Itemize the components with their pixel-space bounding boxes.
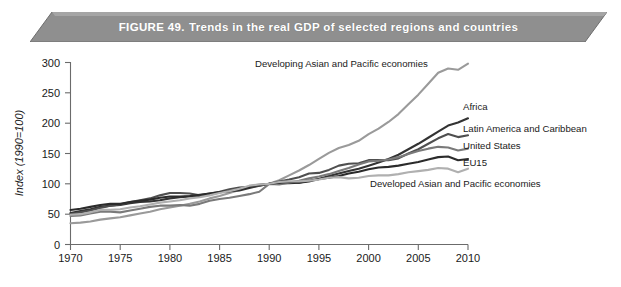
series-line-africa xyxy=(71,118,469,213)
chart-plot-area: 300 250 200 150 100 50 0 Index (1990=100… xyxy=(0,48,621,287)
banner-shape-icon xyxy=(30,12,607,42)
x-tick-label-2005: 2005 xyxy=(406,252,430,264)
y-axis-title: Index (1990=100) xyxy=(13,109,25,196)
x-tick-label-1990: 1990 xyxy=(257,252,281,264)
series-label-latin-america: Latin America and Caribbean xyxy=(463,123,587,134)
series-label-united-states: United States xyxy=(463,140,521,151)
series-line-developing-asian-and-pacific-economies xyxy=(71,64,469,224)
figure-title-banner: FIGURE 49. Trends in the real GDP of sel… xyxy=(30,12,607,42)
series-line-developed-asian-and-pacific-economies xyxy=(71,168,469,215)
figure-container: FIGURE 49. Trends in the real GDP of sel… xyxy=(0,0,621,287)
series-label-eu15: EU15 xyxy=(463,157,487,168)
y-tick-label-300: 300 xyxy=(42,57,60,69)
series-paths-group xyxy=(71,64,469,224)
x-axis-ticks xyxy=(71,245,469,251)
x-tick-label-2010: 2010 xyxy=(456,252,480,264)
x-tick-label-1975: 1975 xyxy=(108,252,132,264)
y-axis-ticks xyxy=(65,63,71,245)
y-tick-label-100: 100 xyxy=(42,178,60,190)
x-tick-label-2000: 2000 xyxy=(356,252,380,264)
series-label-developing-asia: Developing Asian and Pacific economies xyxy=(255,58,428,69)
x-tick-label-1985: 1985 xyxy=(207,252,231,264)
x-tick-label-1995: 1995 xyxy=(307,252,331,264)
y-tick-label-50: 50 xyxy=(48,208,60,220)
line-chart-svg: 300 250 200 150 100 50 0 Index (1990=100… xyxy=(0,48,621,287)
y-tick-label-250: 250 xyxy=(42,87,60,99)
series-label-developed-asia: Developed Asian and Pacific economies xyxy=(370,178,541,189)
y-tick-label-0: 0 xyxy=(54,239,60,251)
y-tick-label-150: 150 xyxy=(42,148,60,160)
x-tick-label-1970: 1970 xyxy=(58,252,82,264)
y-tick-label-200: 200 xyxy=(42,117,60,129)
series-label-africa: Africa xyxy=(463,101,488,112)
x-tick-label-1980: 1980 xyxy=(158,252,182,264)
